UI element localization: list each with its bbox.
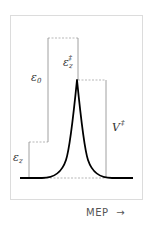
- energy-diagram: [0, 0, 152, 228]
- label-epsilon-z: εz: [13, 152, 23, 165]
- label-epsilon-0: ε0: [31, 72, 41, 85]
- mep-axis-text: MEP: [86, 207, 108, 218]
- arrow-right-icon: →: [116, 207, 125, 218]
- label-v-dagger: V‡: [112, 122, 123, 133]
- mep-axis-label: MEP →: [86, 207, 125, 218]
- label-epsilon-z-dagger: εz‡: [63, 57, 76, 70]
